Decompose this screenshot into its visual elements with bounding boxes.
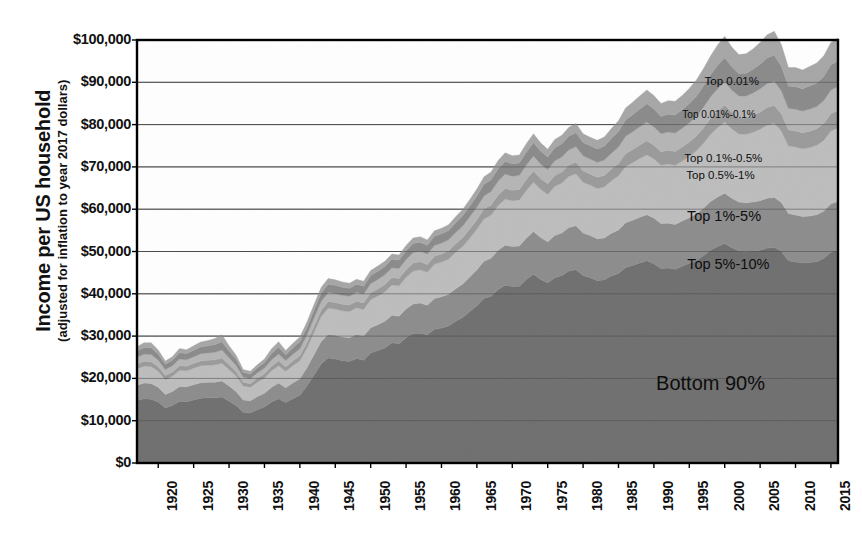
x-axis-tick-1990: 1990 bbox=[660, 481, 676, 511]
y-axis-tick-90000: $90,000 bbox=[7, 73, 131, 89]
y-axis-tick-labels: $0$10,000$20,000$30,000$40,000$50,000$60… bbox=[0, 0, 131, 533]
x-axis-tick-1925: 1925 bbox=[200, 481, 216, 511]
x-axis-tick-1985: 1985 bbox=[624, 481, 640, 511]
x-axis-tick-2000: 2000 bbox=[731, 481, 747, 511]
y-axis-tick-0: $0 bbox=[7, 454, 131, 470]
x-axis-tick-1920: 1920 bbox=[164, 481, 180, 511]
y-axis-tick-80000: $80,000 bbox=[7, 116, 131, 132]
x-axis-tick-2005: 2005 bbox=[766, 481, 782, 511]
y-axis-tick-10000: $10,000 bbox=[7, 412, 131, 428]
x-axis-tick-1955: 1955 bbox=[412, 481, 428, 511]
x-axis-tick-1930: 1930 bbox=[235, 481, 251, 511]
x-axis-tick-1940: 1940 bbox=[306, 481, 322, 511]
y-axis-tick-30000: $30,000 bbox=[7, 327, 131, 343]
y-axis-tick-50000: $50,000 bbox=[7, 243, 131, 259]
x-axis-tick-1965: 1965 bbox=[483, 481, 499, 511]
x-axis-tick-1995: 1995 bbox=[695, 481, 711, 511]
x-axis-tick-1975: 1975 bbox=[554, 481, 570, 511]
y-axis-tick-70000: $70,000 bbox=[7, 158, 131, 174]
x-axis-tick-1945: 1945 bbox=[341, 481, 357, 511]
income-distribution-area-chart: Income per US household (adjusted for in… bbox=[0, 0, 862, 533]
y-axis-tick-100000: $100,000 bbox=[7, 31, 131, 47]
x-axis-tick-1980: 1980 bbox=[589, 481, 605, 511]
x-axis-tick-1970: 1970 bbox=[518, 481, 534, 511]
y-axis-tick-20000: $20,000 bbox=[7, 369, 131, 385]
x-axis-tick-1935: 1935 bbox=[270, 481, 286, 511]
x-axis-tick-2015: 2015 bbox=[837, 481, 853, 511]
x-axis-tick-1960: 1960 bbox=[447, 481, 463, 511]
x-axis-tick-1950: 1950 bbox=[377, 481, 393, 511]
y-axis-tick-60000: $60,000 bbox=[7, 200, 131, 216]
y-axis-tick-40000: $40,000 bbox=[7, 285, 131, 301]
x-axis-tick-2010: 2010 bbox=[802, 481, 818, 511]
